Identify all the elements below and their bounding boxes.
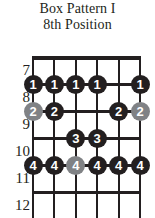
- finger-dot-fret8-string3: 1: [66, 75, 85, 94]
- title-line-1: Box Pattern I: [0, 1, 155, 17]
- fret-line-3: [32, 137, 141, 140]
- fretboard-grid: 11111222233444444: [33, 56, 140, 218]
- finger-dot-fret9-string5: 2: [109, 102, 128, 121]
- fret-line-5: [32, 191, 141, 194]
- finger-dot-fret9-string2: 2: [45, 102, 64, 121]
- finger-dot-fret10-string3: 3: [66, 129, 85, 148]
- fretboard-diagram: Box Pattern I 8th Position 789101112 111…: [0, 0, 155, 218]
- finger-dot-fret11-string2: 4: [45, 156, 64, 175]
- finger-dot-fret11-string1: 4: [24, 156, 43, 175]
- finger-dot-fret10-string4: 3: [88, 129, 107, 148]
- title-line-2: 8th Position: [0, 17, 155, 33]
- fret-number-7: 7: [0, 63, 30, 78]
- fret-number-8: 8: [0, 90, 30, 105]
- finger-dot-fret8-string4: 1: [88, 75, 107, 94]
- fret-number-11: 11: [0, 171, 30, 186]
- finger-dot-fret8-string1: 1: [24, 75, 43, 94]
- finger-dot-fret11-string4: 4: [88, 156, 107, 175]
- diagram-title: Box Pattern I 8th Position: [0, 1, 155, 33]
- fret-number-9: 9: [0, 117, 30, 132]
- finger-dot-fret9-string6: 2: [131, 102, 150, 121]
- finger-dot-fret8-string6: 1: [131, 75, 150, 94]
- finger-dot-fret8-string2: 1: [45, 75, 64, 94]
- fret-number-12: 12: [0, 198, 30, 213]
- finger-dot-fret11-string6: 4: [131, 156, 150, 175]
- nut-line: [32, 56, 141, 60]
- finger-dot-fret11-string3: 4: [66, 156, 85, 175]
- finger-dot-fret11-string5: 4: [109, 156, 128, 175]
- finger-dot-fret9-string1: 2: [24, 102, 43, 121]
- fret-number-10: 10: [0, 144, 30, 159]
